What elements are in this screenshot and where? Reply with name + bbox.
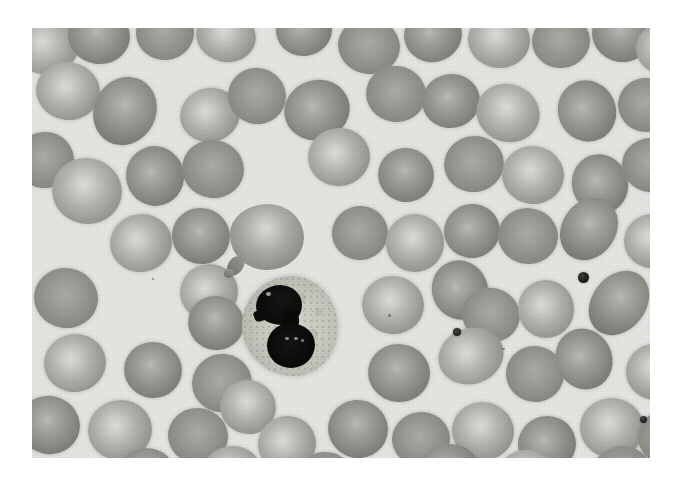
platelet (640, 416, 647, 423)
red-blood-cell (615, 75, 650, 135)
red-blood-cell (273, 28, 336, 60)
red-blood-cell (191, 28, 262, 68)
red-blood-cell (165, 201, 236, 271)
chromatin-highlight (301, 339, 304, 342)
red-blood-cell (438, 198, 505, 264)
white-blood-cell-neutrophil (242, 276, 338, 376)
chromatin-highlight (285, 337, 289, 340)
red-blood-cell (365, 341, 433, 405)
stain-speck (388, 314, 391, 317)
nucleus-lobe-lower (267, 323, 315, 368)
red-blood-cell (134, 28, 196, 62)
red-blood-cell (621, 211, 650, 271)
red-blood-cell (329, 202, 392, 263)
red-blood-cell (119, 337, 187, 404)
stain-speck (502, 348, 505, 350)
red-blood-cell (119, 139, 191, 213)
platelet (453, 328, 461, 336)
chromatin-highlight (294, 337, 298, 340)
red-blood-cell (418, 69, 484, 132)
red-blood-cell (498, 142, 567, 208)
red-blood-cell (372, 142, 439, 208)
red-blood-cell (358, 272, 427, 338)
red-blood-cell (321, 393, 395, 458)
red-blood-cell (495, 205, 561, 267)
platelet (578, 272, 589, 283)
red-blood-cell (105, 209, 176, 277)
blood-smear-micrograph (32, 28, 650, 458)
red-blood-cell (529, 28, 592, 71)
red-blood-cell (622, 340, 650, 404)
red-blood-cell (398, 28, 467, 68)
red-blood-cell (177, 135, 248, 203)
red-blood-cell (548, 71, 626, 151)
red-blood-cell (32, 389, 86, 458)
screenshot-root (0, 0, 676, 485)
chromatin-highlight (266, 292, 271, 296)
red-blood-cell (32, 263, 103, 333)
red-blood-cell (40, 330, 109, 396)
red-blood-cell (465, 28, 533, 71)
stain-speck (152, 278, 154, 280)
